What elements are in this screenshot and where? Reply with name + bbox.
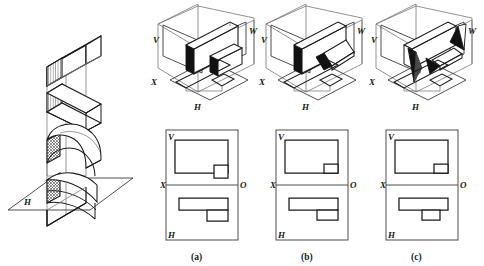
- proj-c-h-view: [399, 198, 448, 220]
- caption-c: (c): [411, 252, 422, 263]
- proj-a-label-X: X: [160, 180, 167, 190]
- proj-c-label-X: X: [380, 180, 387, 190]
- iso-a-label-X: X: [150, 77, 158, 87]
- proj-c-v-view: [395, 140, 448, 173]
- iso-b-label-W: W: [357, 26, 366, 36]
- iso-b-label-H: H: [301, 102, 310, 112]
- isometric-c: V W X H: [368, 2, 482, 114]
- proj-a-h-view: [179, 198, 228, 221]
- prism-section-curved-dome: [47, 124, 101, 176]
- prism-section-curved-swept: [47, 173, 97, 219]
- iso-a-label-H: H: [193, 102, 202, 112]
- prism-top-block: [47, 36, 101, 86]
- isometric-a: V W X H: [150, 2, 262, 114]
- iso-c-label-V: V: [371, 35, 378, 45]
- proj-b-label-O: O: [350, 180, 357, 190]
- proj-c-label-O: O: [460, 180, 467, 190]
- projection-a: V H X O (a): [160, 126, 252, 266]
- isometric-b: V W X H: [258, 2, 370, 114]
- proj-b-h-view: [289, 198, 338, 220]
- proj-b-label-V: V: [278, 132, 285, 142]
- left-figure-sectioned-prism: H: [0, 0, 150, 266]
- iso-c-label-X: X: [368, 77, 376, 87]
- iso-c-label-H: H: [411, 102, 420, 112]
- proj-a-label-V: V: [168, 132, 175, 142]
- proj-a-label-H: H: [167, 230, 176, 240]
- projection-c: V H X O (c): [380, 126, 476, 266]
- proj-c-label-H: H: [387, 230, 396, 240]
- caption-b: (b): [301, 252, 313, 263]
- projection-b: V H X O (b): [270, 126, 362, 266]
- proj-b-label-H: H: [277, 230, 286, 240]
- iso-a-label-V: V: [153, 35, 160, 45]
- left-plane-label-H: H: [23, 197, 32, 207]
- proj-a-v-view: [175, 140, 228, 178]
- iso-c-label-W: W: [468, 26, 477, 36]
- proj-b-v-view: [285, 140, 338, 173]
- proj-a-label-O: O: [240, 180, 247, 190]
- caption-a: (a): [191, 252, 202, 263]
- iso-a-label-W: W: [249, 26, 258, 36]
- figure-plate: H: [0, 0, 484, 266]
- proj-c-label-V: V: [388, 132, 395, 142]
- iso-b-label-V: V: [261, 35, 268, 45]
- iso-b-label-X: X: [258, 77, 266, 87]
- proj-b-label-X: X: [270, 180, 277, 190]
